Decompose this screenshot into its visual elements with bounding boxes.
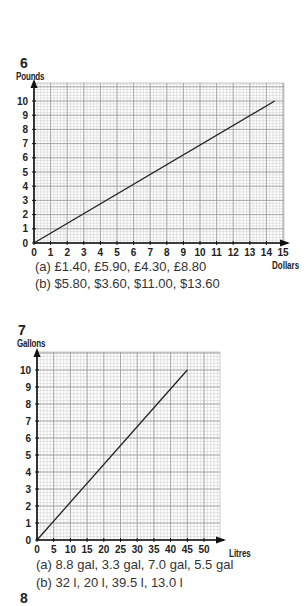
x-tick-label: 15 (82, 544, 94, 555)
y-tick-label: 3 (25, 484, 31, 495)
x-tick-label: 5 (51, 544, 57, 555)
y-tick-label: 5 (25, 450, 31, 461)
question-number-8: 8 (20, 590, 28, 606)
answer-7b: (b) 32 l, 20 l, 39.5 l, 13.0 l (36, 575, 183, 590)
grid (37, 352, 220, 540)
x-tick-label: 45 (182, 544, 194, 555)
y-tick-label: 9 (25, 382, 31, 393)
x-tick-label: 35 (148, 544, 160, 555)
x-tick-label: 0 (34, 544, 40, 555)
x-tick-label: 10 (65, 544, 77, 555)
y-tick-label: 1 (25, 518, 31, 529)
y-tick-label: 4 (25, 467, 31, 478)
x-tick-label: 25 (115, 544, 127, 555)
y-tick-label: 2 (25, 501, 31, 512)
y-tick-label: 7 (25, 416, 31, 427)
x-tick-label: 40 (165, 544, 177, 555)
answer-7a: (a) 8.8 gal, 3.3 gal, 7.0 gal, 5.5 gal (36, 557, 233, 572)
y-tick-label: 6 (25, 433, 31, 444)
x-tick-label: 20 (98, 544, 110, 555)
x-tick-label: 50 (198, 544, 210, 555)
y-tick-label: 8 (25, 399, 31, 410)
y-tick-label: 10 (20, 365, 32, 376)
x-tick-label: 30 (132, 544, 144, 555)
x-axis-arrow-icon (216, 537, 226, 544)
y-tick-label: 0 (25, 535, 31, 546)
y-axis-arrow-icon (34, 348, 41, 357)
